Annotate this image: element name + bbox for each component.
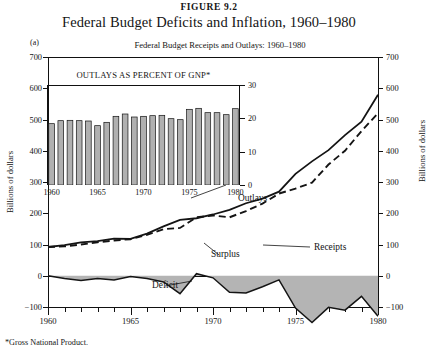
footnote: *Gross National Product. bbox=[5, 338, 88, 347]
x-tick bbox=[147, 307, 148, 312]
y-axis-label-right: −100 bbox=[386, 303, 420, 312]
y-axis-label-left: 500 bbox=[8, 115, 42, 124]
leader-receipts bbox=[263, 245, 310, 247]
y-axis-label-right: 700 bbox=[386, 53, 420, 62]
x-tick bbox=[65, 307, 66, 312]
figure-number: FIGURE 9.2 bbox=[0, 2, 418, 12]
y-axis-label-right: 500 bbox=[386, 115, 420, 124]
inset-bar bbox=[76, 121, 82, 185]
y-axis-label-left: 0 bbox=[8, 271, 42, 280]
inset-bar bbox=[58, 121, 64, 185]
inset-bar bbox=[150, 116, 156, 185]
y-tick-right bbox=[378, 151, 383, 152]
inset-bar bbox=[95, 126, 101, 185]
x-tick bbox=[230, 307, 231, 312]
y-tick-right bbox=[378, 245, 383, 246]
inset-y-axis-label: 30 bbox=[248, 81, 256, 90]
y-axis-label-left: 700 bbox=[8, 53, 42, 62]
y-axis-title-left: Billions of dollars bbox=[5, 151, 15, 213]
y-axis-label-left: 600 bbox=[8, 84, 42, 93]
annotation-surplus: Surplus bbox=[211, 249, 240, 259]
inset-y-axis-label: 0 bbox=[248, 181, 252, 190]
inset-bar bbox=[187, 109, 193, 185]
x-axis-label: 1965 bbox=[122, 316, 139, 326]
inset-x-axis-label: 1975 bbox=[181, 188, 197, 197]
y-axis-label-left: −100 bbox=[8, 303, 42, 312]
inset-bar bbox=[141, 116, 147, 185]
inset-bar bbox=[49, 124, 55, 185]
annotation-deficit: Deficit bbox=[152, 280, 178, 290]
x-tick bbox=[279, 307, 280, 312]
inset-bar bbox=[205, 113, 211, 185]
figure-title: Federal Budget Deficits and Inflation, 1… bbox=[0, 14, 418, 31]
y-tick-right bbox=[378, 276, 383, 277]
inset-bar bbox=[233, 109, 239, 185]
y-axis-label-right: 400 bbox=[386, 146, 420, 155]
inset-bar bbox=[104, 122, 110, 185]
y-axis-label-right: 300 bbox=[386, 178, 420, 187]
x-tick bbox=[48, 307, 49, 315]
inset-bar bbox=[196, 108, 202, 185]
inset-chart: OUTLAYS AS PERCENT OF GNP* 0102030 19601… bbox=[47, 85, 240, 185]
inset-y-tick bbox=[240, 118, 245, 119]
inset-y-axis-label: 10 bbox=[248, 147, 256, 156]
inset-bar bbox=[168, 119, 174, 185]
x-tick bbox=[180, 307, 181, 312]
inset-bar bbox=[86, 121, 92, 185]
chart-subtitle: Federal Budget Receipts and Outlays: 196… bbox=[60, 40, 380, 50]
x-tick bbox=[246, 307, 247, 312]
inset-y-axis-label: 20 bbox=[248, 114, 256, 123]
inset-bar bbox=[122, 114, 128, 185]
inset-bar bbox=[223, 115, 229, 185]
x-tick bbox=[213, 307, 214, 315]
x-tick bbox=[378, 307, 379, 315]
annotation-receipts: Receipts bbox=[314, 242, 346, 252]
inset-bar bbox=[67, 120, 73, 185]
y-tick-right bbox=[378, 182, 383, 183]
panel-label: (a) bbox=[30, 38, 39, 47]
y-tick-right bbox=[378, 57, 383, 58]
inset-x-axis-label: 1980 bbox=[227, 188, 243, 197]
y-axis-title-right: Billions of dollars bbox=[417, 120, 427, 182]
x-tick bbox=[164, 307, 165, 312]
x-tick bbox=[114, 307, 115, 312]
x-tick bbox=[98, 307, 99, 312]
inset-x-axis-label: 1965 bbox=[89, 188, 105, 197]
inset-bar bbox=[131, 117, 137, 185]
y-axis-label-left: 100 bbox=[8, 240, 42, 249]
x-axis-label: 1975 bbox=[287, 316, 304, 326]
inset-bars-canvas bbox=[47, 85, 240, 185]
x-tick bbox=[131, 307, 132, 315]
x-tick bbox=[197, 307, 198, 312]
inset-y-tick bbox=[240, 85, 245, 86]
y-tick-right bbox=[378, 88, 383, 89]
y-axis-label-right: 600 bbox=[386, 84, 420, 93]
x-axis-label: 1960 bbox=[39, 316, 56, 326]
inset-y-tick bbox=[240, 185, 245, 186]
inset-y-tick bbox=[240, 152, 245, 153]
y-tick-right bbox=[378, 213, 383, 214]
inset-bar bbox=[113, 116, 119, 185]
y-tick-right bbox=[378, 120, 383, 121]
inset-bar bbox=[177, 120, 183, 185]
inset-title: OUTLAYS AS PERCENT OF GNP* bbox=[47, 70, 240, 80]
inset-x-axis-label: 1960 bbox=[43, 188, 59, 197]
y-axis-label-right: 200 bbox=[386, 209, 420, 218]
inset-bar bbox=[159, 115, 165, 185]
x-axis-label: 1970 bbox=[204, 316, 221, 326]
x-tick bbox=[362, 307, 363, 312]
x-tick bbox=[81, 307, 82, 312]
inset-x-axis-label: 1970 bbox=[135, 188, 151, 197]
y-axis-label-right: 100 bbox=[386, 240, 420, 249]
x-axis-label: 1980 bbox=[369, 316, 386, 326]
inset-bar bbox=[214, 113, 220, 185]
x-tick bbox=[263, 307, 264, 312]
y-axis-label-right: 0 bbox=[386, 271, 420, 280]
